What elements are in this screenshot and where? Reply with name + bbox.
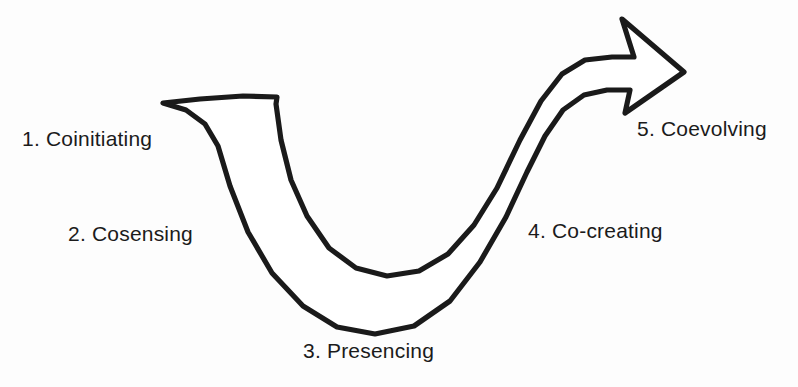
diagram-canvas: 1. Coinitiating 2. Cosensing 3. Presenci… bbox=[0, 0, 798, 387]
u-band-path bbox=[163, 19, 684, 334]
stage-label-presencing: 3. Presencing bbox=[303, 340, 434, 361]
u-curve-arrow-graphic bbox=[0, 0, 798, 387]
stage-label-cosensing: 2. Cosensing bbox=[68, 223, 193, 244]
stage-label-co-creating: 4. Co-creating bbox=[528, 220, 663, 241]
stage-label-coinitiating: 1. Coinitiating bbox=[22, 128, 152, 149]
stage-label-coevolving: 5. Coevolving bbox=[637, 118, 767, 139]
